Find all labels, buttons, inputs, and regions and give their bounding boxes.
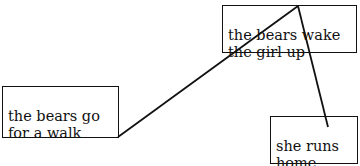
edge-walk-to-wake	[118, 6, 298, 137]
edges-layer	[0, 0, 360, 166]
edge-wake-to-runs	[298, 6, 328, 127]
